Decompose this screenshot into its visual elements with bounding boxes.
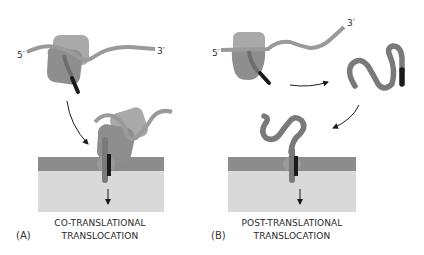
five-prime-label-b: 5′ <box>212 48 220 58</box>
mrna-strand-a <box>27 46 155 60</box>
arrow-release-b <box>290 82 328 86</box>
chain-entering-b <box>263 116 304 152</box>
three-prime-label-a: 3′ <box>157 46 165 56</box>
ribosome-small-subunit <box>47 47 82 84</box>
panel-a: 5′ 3′ CO-TRANSLATIONAL TRANSLOCATION (A) <box>16 35 172 241</box>
translocation-diagram: 5′ 3′ CO-TRANSLATIONAL TRANSLOCATION (A)… <box>0 0 424 255</box>
caption-line1-b: POST-TRANSLATIONAL <box>242 218 343 228</box>
arrow-targeting-b <box>333 105 359 128</box>
panel-label-b: (B) <box>211 230 226 241</box>
curved-arrow-a <box>67 101 88 144</box>
five-prime-label-a: 5′ <box>17 50 25 60</box>
panel-label-a: (A) <box>16 230 31 241</box>
caption-line1-a: CO-TRANSLATIONAL <box>54 218 145 228</box>
panel-b: 5′ 3′ POST-TRANSLATIONAL TRANSLOCATION (… <box>211 18 402 241</box>
caption-line2-b: TRANSLOCATION <box>253 231 331 241</box>
signal-sequence-b <box>260 73 269 83</box>
folded-polypeptide-b <box>350 46 402 88</box>
three-prime-label-b: 3′ <box>347 18 355 28</box>
caption-line2-a: TRANSLOCATION <box>61 231 139 241</box>
